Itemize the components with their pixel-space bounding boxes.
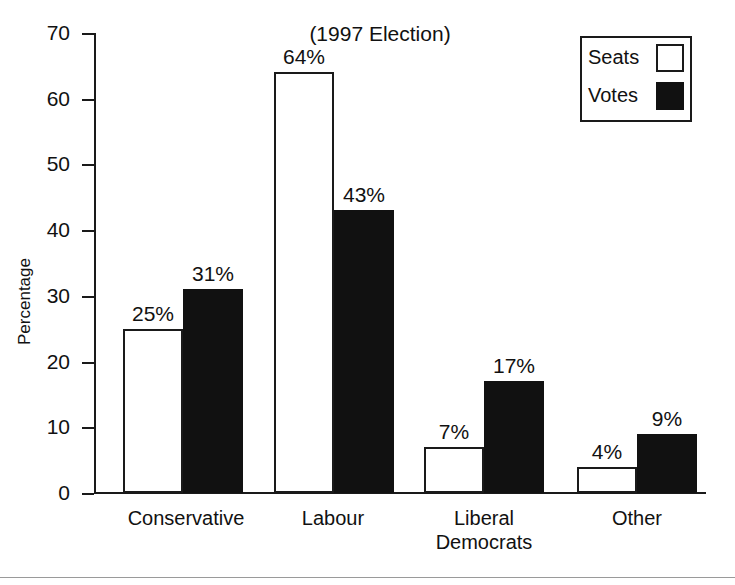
category-label-line: Democrats [394,530,574,554]
bar-other-votes [637,434,697,493]
y-tick-label: 20 [30,351,70,372]
y-tick: 30 [0,296,94,298]
category-label-line: Other [547,506,727,530]
y-tick-label: 10 [30,416,70,437]
footer-divider [0,577,735,578]
y-tick: 10 [0,427,94,429]
y-tick: 40 [0,230,94,232]
legend-label-seats: Seats [588,45,639,69]
y-tick-label: 40 [30,219,70,240]
y-tick-label: 0 [30,482,70,503]
y-tick: 20 [0,362,94,364]
y-tick-mark [82,33,94,35]
bar-labour-seats [274,72,334,493]
chart-title: (1997 Election) [280,22,480,46]
bar-value-label: 64% [262,46,346,67]
bar-conservative-votes [183,289,243,493]
bar-other-seats [577,467,637,493]
y-tick: 60 [0,99,94,101]
bar-value-label: 31% [171,263,255,284]
y-tick-mark [82,493,94,495]
y-axis-line [94,33,96,494]
y-tick-mark [82,362,94,364]
bar-chart: (1997 Election) Percentage 7060504030201… [0,0,735,585]
bar-value-label: 43% [322,184,406,205]
y-tick-label: 60 [30,88,70,109]
bar-labour-votes [334,210,394,493]
y-tick-label: 30 [30,285,70,306]
legend: Seats Votes [580,36,692,122]
y-tick: 50 [0,164,94,166]
y-tick-mark [82,164,94,166]
bar-conservative-seats [123,329,183,493]
legend-swatch-votes-icon [656,82,684,110]
y-tick: 70 [0,33,94,35]
legend-label-votes: Votes [588,83,638,107]
legend-swatch-seats-icon [656,44,684,72]
y-tick-label: 50 [30,153,70,174]
category-label-other: Other [547,506,727,530]
y-tick: 0 [0,493,94,495]
bar-liberal-democrats-votes [484,381,544,493]
y-tick-label: 70 [30,22,70,43]
legend-entry-seats: Seats [588,42,688,76]
legend-entry-votes: Votes [588,80,688,114]
bar-value-label: 17% [472,355,556,376]
y-tick-mark [82,99,94,101]
bar-liberal-democrats-seats [424,447,484,493]
bar-value-label: 9% [625,408,709,429]
y-tick-mark [82,427,94,429]
y-tick-mark [82,230,94,232]
y-tick-mark [82,296,94,298]
